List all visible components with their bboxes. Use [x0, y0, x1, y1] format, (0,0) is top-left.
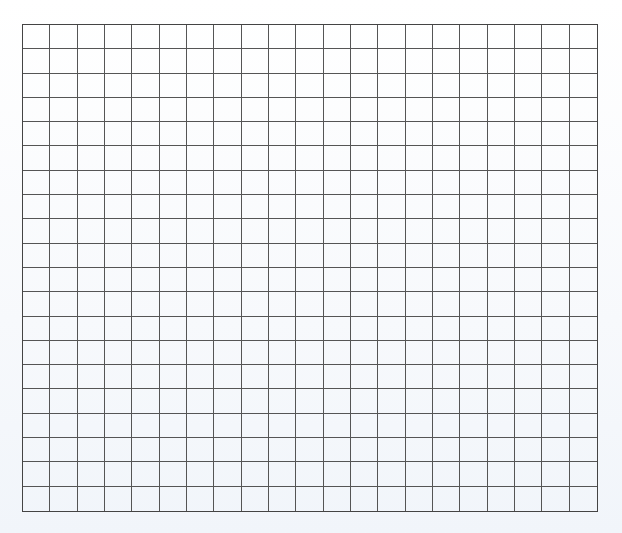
grid-cell: [570, 462, 597, 486]
grid-cell: [105, 74, 132, 98]
grid-cell: [296, 487, 323, 511]
grid-cell: [324, 219, 351, 243]
grid-cell: [351, 74, 378, 98]
grid-cell: [460, 25, 487, 49]
grid-cell: [324, 292, 351, 316]
grid-cell: [296, 268, 323, 292]
grid-cell: [351, 244, 378, 268]
grid-cell: [324, 171, 351, 195]
grid-cell: [132, 438, 159, 462]
grid-cell: [488, 389, 515, 413]
grid-cell: [460, 292, 487, 316]
grid-cell: [23, 292, 50, 316]
grid-cell: [105, 195, 132, 219]
grid-cell: [105, 341, 132, 365]
grid-cell: [433, 195, 460, 219]
grid-cell: [324, 487, 351, 511]
grid-cell: [78, 317, 105, 341]
grid-cell: [296, 414, 323, 438]
grid-cell: [378, 219, 405, 243]
grid-cell: [242, 122, 269, 146]
grid-cell: [214, 389, 241, 413]
grid-cell: [105, 146, 132, 170]
grid-cell: [406, 244, 433, 268]
grid-cell: [542, 74, 569, 98]
grid-cell: [160, 146, 187, 170]
grid-cell: [23, 389, 50, 413]
grid-cell: [433, 98, 460, 122]
grid-cell: [50, 365, 77, 389]
grid-cell: [50, 25, 77, 49]
grid-cell: [23, 462, 50, 486]
grid-cell: [296, 462, 323, 486]
grid-cell: [214, 98, 241, 122]
grid-cell: [324, 341, 351, 365]
grid-cell: [187, 122, 214, 146]
grid-cell: [296, 365, 323, 389]
grid-cell: [433, 292, 460, 316]
grid-cell: [378, 487, 405, 511]
grid-cell: [351, 341, 378, 365]
grid-cell: [105, 365, 132, 389]
grid-cell: [296, 195, 323, 219]
grid-cell: [406, 268, 433, 292]
grid-cell: [214, 341, 241, 365]
grid-cell: [515, 49, 542, 73]
grid-cell: [542, 268, 569, 292]
grid-cell: [242, 25, 269, 49]
grid-cell: [187, 171, 214, 195]
grid-cell: [105, 171, 132, 195]
grid-cell: [187, 292, 214, 316]
grid-cell: [433, 49, 460, 73]
grid-cell: [269, 389, 296, 413]
grid-cell: [23, 438, 50, 462]
grid-cell: [570, 317, 597, 341]
grid-cell: [160, 462, 187, 486]
grid-cell: [570, 414, 597, 438]
grid-cell: [488, 122, 515, 146]
grid-cell: [488, 195, 515, 219]
grid-cell: [433, 244, 460, 268]
grid-cell: [406, 389, 433, 413]
grid-cell: [269, 438, 296, 462]
grid-cell: [406, 317, 433, 341]
grid-cell: [488, 146, 515, 170]
grid-cell: [50, 74, 77, 98]
grid-cell: [406, 438, 433, 462]
grid-cell: [187, 219, 214, 243]
grid-cell: [296, 49, 323, 73]
grid-cell: [269, 414, 296, 438]
grid-cell: [378, 389, 405, 413]
grid-cell: [351, 195, 378, 219]
grid-cell: [132, 341, 159, 365]
grid-cell: [542, 49, 569, 73]
grid-cell: [406, 49, 433, 73]
grid-cell: [269, 74, 296, 98]
grid-cell: [296, 74, 323, 98]
grid-cell: [187, 49, 214, 73]
grid-cell: [515, 195, 542, 219]
grid-cell: [460, 365, 487, 389]
grid-cell: [542, 389, 569, 413]
grid-cell: [378, 49, 405, 73]
grid-cell: [488, 365, 515, 389]
grid-cell: [242, 74, 269, 98]
grid-cell: [78, 341, 105, 365]
grid-cell: [542, 487, 569, 511]
grid-cell: [324, 389, 351, 413]
grid-cell: [187, 389, 214, 413]
grid-cell: [515, 389, 542, 413]
grid-cell: [105, 317, 132, 341]
grid-cell: [160, 122, 187, 146]
grid-cell: [132, 244, 159, 268]
grid-cell: [269, 462, 296, 486]
grid-cell: [515, 219, 542, 243]
grid-cell: [542, 317, 569, 341]
grid-cell: [160, 244, 187, 268]
grid-cell: [187, 462, 214, 486]
grid-cell: [296, 317, 323, 341]
grid-cell: [187, 146, 214, 170]
grid-cell: [160, 98, 187, 122]
grid-cell: [351, 122, 378, 146]
grid-cell: [515, 292, 542, 316]
